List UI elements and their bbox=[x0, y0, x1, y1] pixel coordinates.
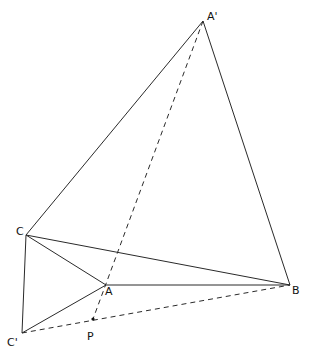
points bbox=[91, 317, 94, 320]
label-A: A bbox=[105, 285, 113, 298]
segment-C-C_prime bbox=[22, 235, 26, 333]
point-P-marker bbox=[91, 317, 94, 320]
label-P: P bbox=[87, 330, 94, 343]
solid-segments bbox=[22, 21, 290, 333]
segment-A_prime-P bbox=[93, 21, 203, 319]
label-C_prime: C' bbox=[7, 336, 18, 349]
dashed-segments bbox=[22, 21, 290, 333]
label-C: C bbox=[16, 225, 24, 238]
segment-A_prime-C bbox=[26, 21, 203, 235]
label-B: B bbox=[292, 284, 300, 297]
geometry-diagram: A'CABC'P bbox=[0, 0, 315, 355]
label-A_prime: A' bbox=[207, 10, 218, 23]
segment-C_prime-B bbox=[22, 285, 290, 333]
segment-A_prime-B bbox=[203, 21, 290, 285]
segment-C_prime-A bbox=[22, 285, 106, 333]
